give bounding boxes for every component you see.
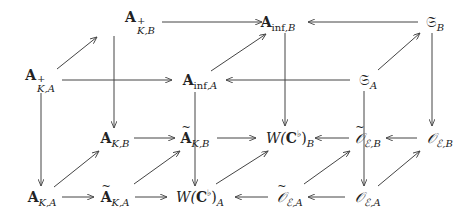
node-AinfA: Ainf,A [183, 73, 218, 87]
node-AinfB: Ainf,B [261, 15, 296, 29]
arrow-OtEA-to-OtEB [304, 151, 350, 184]
arrow-AplusKA-to-AplusKB [57, 37, 97, 69]
node-OEA: 𝒪ℰ,A [355, 190, 380, 204]
node-AplusKA: A+K,A [25, 68, 55, 92]
node-AtKA: AK,A [101, 190, 130, 204]
node-SA: 𝔖A [359, 73, 377, 88]
node-AKB: AK,B [101, 131, 130, 145]
diagram-edges [0, 0, 470, 215]
node-AplusKB: A+K,B [125, 10, 155, 34]
arrow-OEA-to-OEB [378, 151, 420, 186]
arrow-SA-to-SB [378, 33, 420, 70]
node-OEB: 𝒪ℰ,B [427, 131, 453, 145]
node-WCA: W(C♭)A [176, 190, 224, 204]
arrow-AKA-to-AKB [54, 151, 99, 187]
arrow-AinfA-to-AinfB [211, 34, 266, 71]
node-WCB: W(C♭)B [266, 131, 314, 145]
node-AKA: AK,A [28, 190, 57, 204]
arrow-AtKA-to-AtKB [134, 151, 180, 184]
node-AtKB: AK,B [181, 131, 210, 145]
node-SB: 𝔖B [426, 15, 444, 30]
node-OtEB: 𝒪ℰ,B [355, 131, 381, 145]
arrow-WCA-to-WCB [216, 151, 268, 184]
node-OtEA: 𝒪ℰ,A [277, 190, 302, 204]
